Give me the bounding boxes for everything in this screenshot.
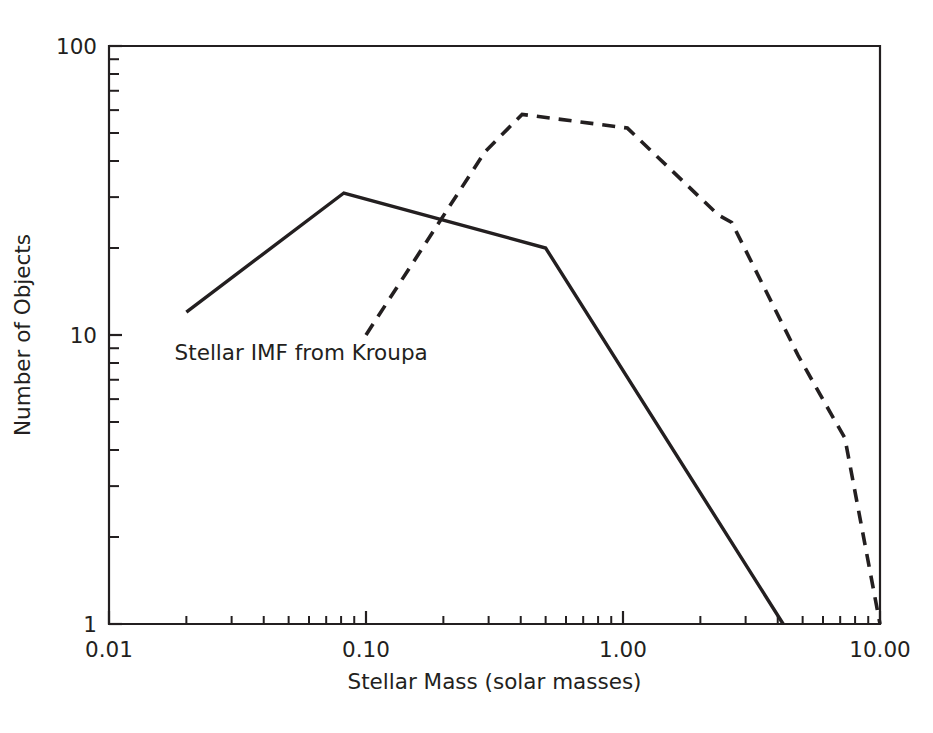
y-axis-tick-labels: 110100 — [56, 34, 97, 637]
axes-box — [109, 46, 880, 624]
y-tick-label: 10 — [70, 323, 97, 348]
x-axis-tick-labels: 0.010.101.0010.00 — [85, 637, 911, 662]
chart-annotations: Stellar IMF from Kroupa — [175, 340, 428, 365]
series-line-1 — [186, 193, 783, 624]
data-series-group — [186, 114, 880, 624]
stellar-imf-chart: 0.010.101.0010.00 110100 Stellar IMF fro… — [0, 0, 933, 733]
x-axis-ticks — [109, 611, 880, 624]
y-tick-label: 1 — [83, 612, 97, 637]
x-tick-label: 10.00 — [849, 637, 911, 662]
x-tick-label: 0.10 — [342, 637, 390, 662]
x-tick-label: 1.00 — [599, 637, 647, 662]
y-tick-label: 100 — [56, 34, 97, 59]
y-axis-ticks — [109, 46, 122, 624]
x-axis-title: Stellar Mass (solar masses) — [348, 669, 642, 694]
chart-figure: 0.010.101.0010.00 110100 Stellar IMF fro… — [0, 0, 933, 733]
stellar-imf-kroupa-label: Stellar IMF from Kroupa — [175, 340, 428, 365]
plot-frame — [109, 46, 880, 624]
y-axis-title: Number of Objects — [10, 234, 35, 436]
x-tick-label: 0.01 — [85, 637, 133, 662]
